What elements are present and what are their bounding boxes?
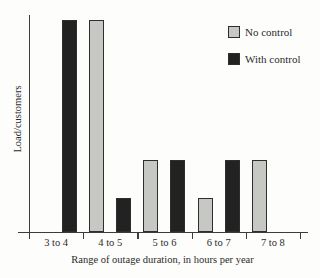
x-axis — [18, 232, 308, 233]
bar-with-control-6-to-7 — [225, 160, 240, 232]
bar-with-control-5-to-6 — [170, 160, 185, 232]
bar-with-control-4-to-5 — [116, 198, 131, 232]
y-axis-label: Load/customers — [12, 85, 23, 152]
legend-label-no-control: No control — [245, 26, 292, 38]
y-axis — [29, 15, 30, 239]
x-tick-label-3-to-4: 3 to 4 — [29, 237, 83, 249]
x-axis-label: Range of outage duration, in hours per y… — [20, 254, 305, 265]
legend-item-with-control: With control — [228, 52, 300, 66]
legend-swatch-no-control — [228, 26, 240, 38]
x-tick-label-7-to-8: 7 to 8 — [246, 237, 300, 249]
bar-no-control-5-to-6 — [143, 160, 158, 232]
x-tick-label-6-to-7: 6 to 7 — [192, 237, 246, 249]
x-tick-label-4-to-5: 4 to 5 — [83, 237, 137, 249]
bar-chart-figure: 3 to 44 to 55 to 66 to 77 to 8 Load/cust… — [0, 0, 320, 278]
legend: No control With control — [228, 25, 300, 79]
legend-swatch-with-control — [228, 53, 240, 65]
bar-with-control-3-to-4 — [62, 20, 77, 232]
x-tick-label-5-to-6: 5 to 6 — [137, 237, 191, 249]
x-axis-tick — [300, 233, 301, 239]
bar-no-control-4-to-5 — [89, 20, 104, 232]
bar-no-control-6-to-7 — [198, 198, 213, 232]
legend-item-no-control: No control — [228, 25, 300, 39]
bar-no-control-7-to-8 — [252, 160, 267, 232]
legend-label-with-control: With control — [245, 53, 300, 65]
